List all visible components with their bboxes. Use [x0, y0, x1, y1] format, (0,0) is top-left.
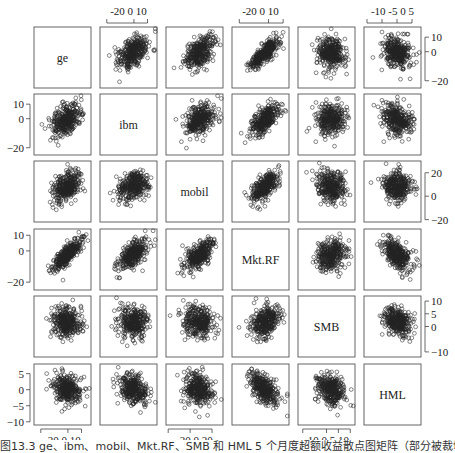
- panel-SMB-HML: [364, 296, 421, 357]
- right-tick-label: 10: [431, 31, 443, 43]
- panel-mobil-HML: [364, 161, 421, 222]
- figure-caption: 图13.3 ge、ibm、mobil、Mkt.RF、SMB 和 HML 5 个月…: [0, 440, 455, 453]
- panel-Mkt.RF-SMB: [298, 229, 355, 290]
- right-tick-label: −20: [431, 214, 449, 226]
- panel-ge-HML: [364, 27, 421, 88]
- left-tick-label: −10: [7, 416, 25, 428]
- panel-SMB-Mkt.RF: [232, 296, 289, 357]
- variable-label: mobil: [180, 185, 209, 199]
- panel-Mkt.RF-ge: [34, 229, 91, 290]
- variable-label: Mkt.RF: [242, 253, 280, 267]
- variable-label: ge: [57, 51, 68, 65]
- panel-ge-mobil: [166, 27, 223, 88]
- left-tick-label: −20: [7, 276, 25, 288]
- right-tick-label: 0: [431, 190, 437, 202]
- panel-Mkt.RF-HML: [364, 229, 421, 290]
- right-tick-label: 20: [431, 167, 443, 179]
- panel-HML-HML: HML: [364, 364, 421, 425]
- right-tick-label: 5: [431, 308, 437, 320]
- panel-HML-ge: [34, 364, 91, 425]
- right-tick-label: 0: [431, 46, 437, 58]
- panel-mobil-SMB: [298, 161, 355, 222]
- left-tick-label: 0: [19, 245, 25, 257]
- panel-ibm-HML: [364, 94, 421, 155]
- variable-label: ibm: [119, 118, 138, 132]
- panel-ibm-ibm: ibm: [100, 94, 157, 155]
- panel-mobil-mobil: mobil: [166, 161, 223, 222]
- panel-SMB-ibm: [100, 296, 157, 357]
- right-tick-label: 10: [431, 295, 443, 307]
- panel-ibm-ge: [34, 94, 91, 155]
- right-tick-label: 0: [431, 321, 437, 333]
- left-tick-label: 10: [13, 229, 25, 241]
- top-tick-labels: -10 -5 0 5: [371, 5, 415, 17]
- panel-mobil-Mkt.RF: [232, 161, 289, 222]
- panel-ibm-SMB: [298, 94, 355, 155]
- top-tick-labels: -20 0 10: [242, 5, 279, 17]
- panel-SMB-ge: [34, 296, 91, 357]
- panel-ibm-Mkt.RF: [232, 94, 289, 155]
- panel-ge-ge: ge: [34, 27, 91, 88]
- panel-mobil-ge: [34, 161, 91, 222]
- panel-mobil-ibm: [100, 161, 157, 222]
- panel-HML-ibm: [100, 364, 157, 425]
- panel-HML-SMB: [298, 364, 355, 425]
- panel-ge-Mkt.RF: [232, 27, 289, 88]
- top-tick-labels: -20 0 10: [110, 5, 147, 17]
- scatterplot-matrix: geibmmobilMkt.RFSMBHML-20 0 10-20 0 10-1…: [0, 0, 455, 440]
- panel-SMB-mobil: [166, 296, 223, 357]
- left-tick-label: −20: [7, 142, 25, 154]
- left-tick-label: 10: [13, 98, 25, 110]
- panel-Mkt.RF-ibm: [100, 229, 157, 290]
- panel-Mkt.RF-Mkt.RF: Mkt.RF: [232, 229, 289, 290]
- left-tick-label: 5: [19, 368, 25, 380]
- panel-ge-SMB: [298, 27, 355, 88]
- panel-ibm-mobil: [166, 94, 223, 155]
- panel-HML-mobil: [166, 364, 223, 425]
- panel-SMB-SMB: SMB: [298, 296, 355, 357]
- left-tick-label: 0: [19, 113, 25, 125]
- left-tick-label: 0: [19, 384, 25, 396]
- variable-label: HML: [379, 388, 406, 402]
- variable-label: SMB: [314, 320, 339, 334]
- right-tick-label: −10: [431, 346, 449, 358]
- panel-Mkt.RF-mobil: [166, 229, 223, 290]
- panel-ge-ibm: [100, 27, 157, 88]
- panel-HML-Mkt.RF: [232, 364, 289, 425]
- right-tick-label: −20: [431, 75, 449, 87]
- left-tick-label: −5: [12, 400, 24, 412]
